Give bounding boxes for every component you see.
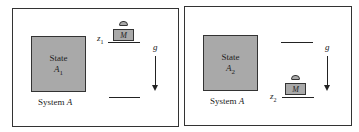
state-box-a1: State A1 <box>31 36 86 92</box>
gravity-label: g <box>153 42 158 52</box>
system-label: System A <box>210 96 244 106</box>
mass-handle-icon <box>291 75 300 80</box>
state-label: State <box>32 53 85 64</box>
mass-handle-icon <box>119 21 128 26</box>
state-name: A1 <box>32 64 85 79</box>
height-label-z2: z2 <box>270 91 277 103</box>
upper-level-line <box>108 42 140 43</box>
mass-block: M <box>113 29 134 41</box>
state-box-a2: State A2 <box>203 35 258 91</box>
upper-level-line <box>281 42 313 43</box>
gravity-arrow-icon <box>155 56 156 86</box>
gravity-arrow-icon <box>327 56 328 86</box>
state-label: State <box>204 52 257 63</box>
gravity-label: g <box>325 42 330 52</box>
lower-level-line <box>282 97 314 98</box>
state-name: A2 <box>204 63 257 78</box>
lower-level-line <box>109 97 140 98</box>
system-label: System A <box>38 97 72 107</box>
height-label-z1: z1 <box>97 33 104 45</box>
mass-block: M <box>285 83 306 95</box>
